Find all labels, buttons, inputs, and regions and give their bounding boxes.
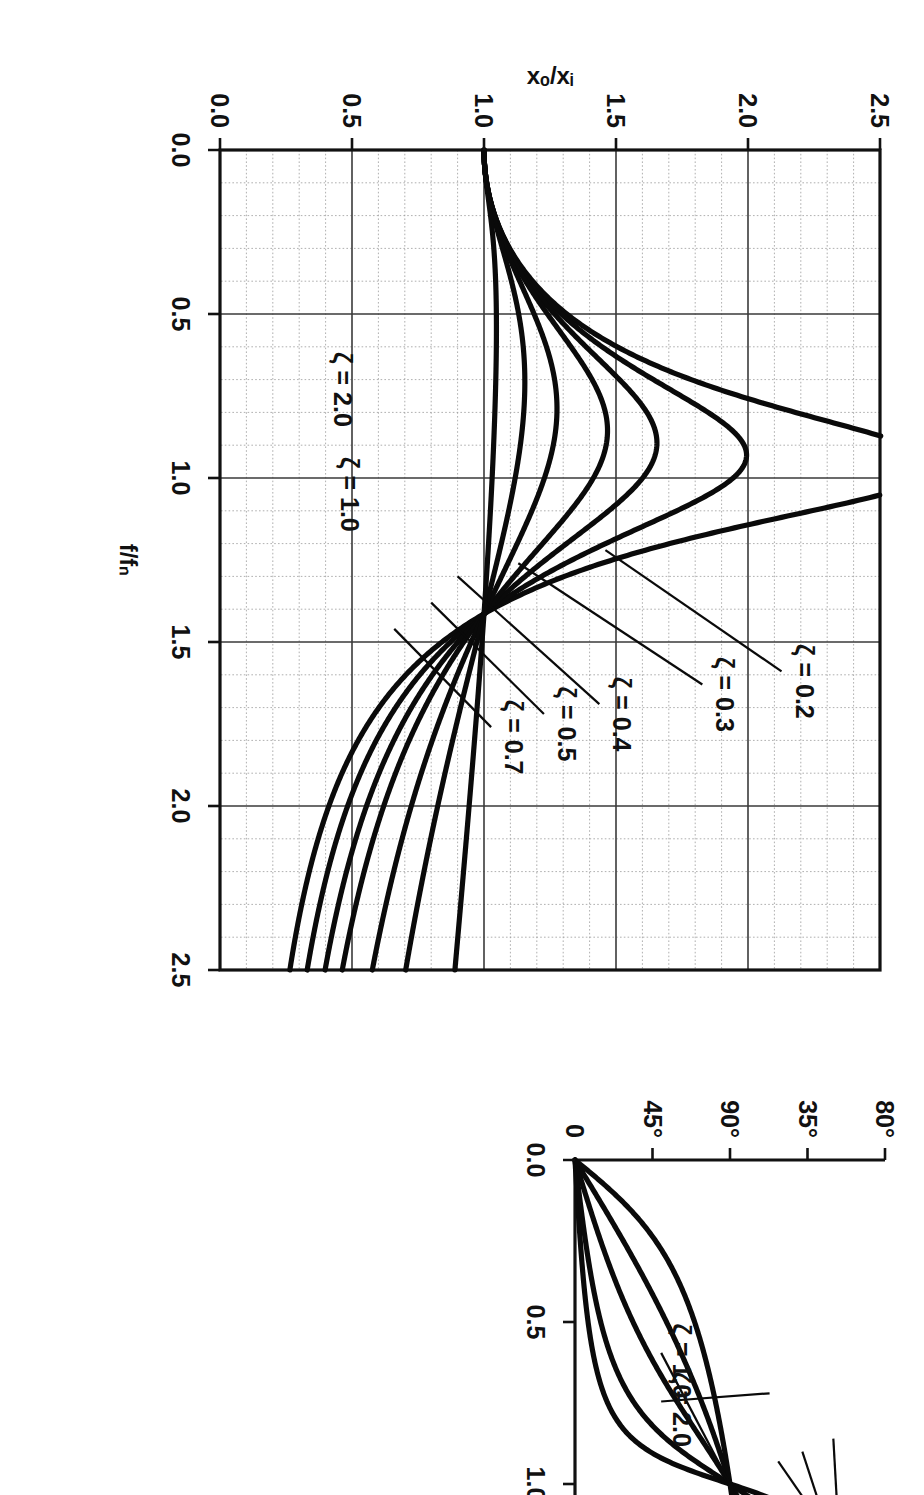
- x-axis-title: f/fₙ: [115, 544, 142, 577]
- phase-x-tick-label: 1.0: [522, 1467, 550, 1495]
- y-tick-label: 2.5: [866, 93, 894, 128]
- curve-label: ζ = 0.4: [608, 677, 636, 752]
- y-tick-label: 0.5: [338, 93, 366, 128]
- y-tick-label: 0.0: [206, 93, 234, 128]
- curve-label: ζ = 1.0: [336, 457, 364, 532]
- x-axis-ticks: 0.00.51.01.52.02.5: [167, 133, 220, 988]
- phase-angle-chart-panel: ζ = 0.1ζ = 0.2ζ = 0.5ζ = 1.0ζ = 2.0 0.00…: [475, 1040, 905, 1495]
- minor-gridlines: [220, 150, 880, 970]
- phase-y-tick-label: 80°: [871, 1100, 899, 1138]
- curve-label: ζ = 0.2: [791, 644, 819, 719]
- phase-x-tick-label: 0.5: [522, 1305, 550, 1340]
- plot-frame: [220, 150, 880, 970]
- y-tick-label: 1.5: [602, 93, 630, 128]
- phase-svg: ζ = 0.1ζ = 0.2ζ = 0.5ζ = 1.0ζ = 2.0 0.00…: [475, 1040, 905, 1495]
- major-gridlines: [220, 150, 880, 970]
- phase-y-tick-label: 45°: [639, 1100, 667, 1138]
- x-tick-label: 1.0: [167, 461, 195, 496]
- curve-label: ζ = 0.3: [711, 657, 739, 732]
- y-tick-label: 2.0: [734, 93, 762, 128]
- x-tick-label: 2.0: [167, 789, 195, 824]
- phase-y-axis-ticks: 045°90°35°80°: [561, 1100, 899, 1160]
- x-tick-label: 1.5: [167, 625, 195, 660]
- phase-x-tick-label: 0.0: [522, 1143, 550, 1178]
- phase-plot-area: ζ = 0.1ζ = 0.2ζ = 0.5ζ = 1.0ζ = 2.0 0.00…: [475, 1040, 905, 1495]
- x-tick-label: 0.0: [167, 133, 195, 168]
- y-axis-title: xₒ/xᵢ: [527, 62, 574, 89]
- phase-curve-labels: ζ = 0.1ζ = 0.2ζ = 0.5ζ = 1.0ζ = 2.0: [668, 1323, 877, 1495]
- transmissibility-svg: ζ = 0.2ζ = 0.3ζ = 0.4ζ = 0.5ζ = 0.7ζ = 1…: [50, 40, 910, 1040]
- phase-y-tick-label: 90°: [716, 1100, 744, 1138]
- x-tick-label: 2.5: [167, 953, 195, 988]
- phase-x-axis-ticks: 0.00.51.01.52.02.5: [522, 1143, 575, 1495]
- figure-stage: ζ = 0.2ζ = 0.3ζ = 0.4ζ = 0.5ζ = 0.7ζ = 1…: [0, 0, 924, 1495]
- x-tick-label: 0.5: [167, 297, 195, 332]
- phase-y-tick-label: 0: [561, 1124, 589, 1138]
- curve-label: ζ = 0.5: [553, 687, 581, 762]
- y-axis-ticks: 0.00.51.01.52.02.5: [206, 93, 894, 150]
- y-tick-label: 1.0: [470, 93, 498, 128]
- transmissibility-curve-labels: ζ = 0.2ζ = 0.3ζ = 0.4ζ = 0.5ζ = 0.7ζ = 1…: [329, 352, 819, 774]
- transmissibility-plot-area: ζ = 0.2ζ = 0.3ζ = 0.4ζ = 0.5ζ = 0.7ζ = 1…: [50, 40, 910, 1040]
- curve-label: ζ = 2.0: [668, 1372, 696, 1447]
- phase-curves: [575, 1160, 876, 1495]
- transmissibility-chart-panel: ζ = 0.2ζ = 0.3ζ = 0.4ζ = 0.5ζ = 0.7ζ = 1…: [50, 40, 910, 1040]
- curve-label: ζ = 2.0: [329, 352, 357, 427]
- phase-y-tick-label: 35°: [794, 1100, 822, 1138]
- curve-label: ζ = 0.7: [500, 700, 528, 775]
